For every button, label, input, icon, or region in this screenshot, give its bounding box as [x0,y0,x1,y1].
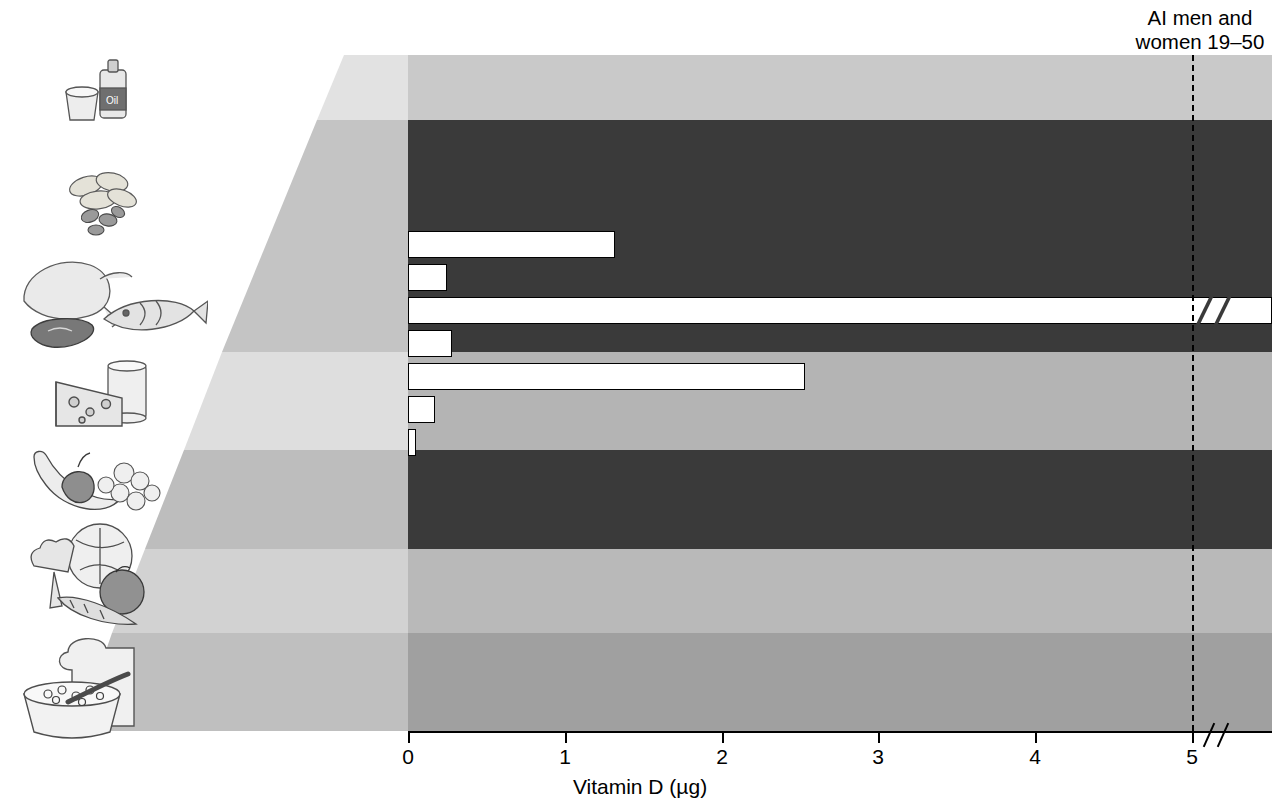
bar-cheddar-cheese [408,396,435,423]
bar-milk [408,363,805,390]
band-fats-oils-sweets [408,55,1272,120]
dairy-illustration [26,360,156,448]
band-grain-group [408,633,1272,731]
band-vegetable-group [408,549,1272,633]
bar-chicken [408,330,452,357]
bar-salmon [408,297,1218,324]
vegetable-illustration [14,520,194,630]
fruit-illustration [28,437,178,533]
ai-annotation-line1: AI men and [1120,6,1280,30]
grains-illustration [16,630,176,740]
x-ticklabel-0: 0 [388,745,428,769]
x-tick-3 [878,731,880,743]
x-axis-line [408,731,1272,733]
oils-illustration: Oil [52,58,157,130]
band-fruit-group [408,450,1272,549]
svg-text:Oil: Oil [106,95,118,106]
x-tick-4 [1035,731,1037,743]
vitamin-d-food-sources-chart: Oil [0,0,1280,809]
ai-reference-line [1192,55,1194,731]
x-ticklabel-2: 2 [702,745,742,769]
x-axis-title: Vitamin D (µg) [0,775,1280,799]
x-tick-2 [722,731,724,743]
x-tick-0 [408,731,410,743]
ai-annotation: AI men and women 19–50 [1120,6,1280,54]
x-tick-5 [1192,731,1194,743]
nuts-legumes-illustration [60,168,168,240]
meat-fish-illustration [8,245,208,357]
x-ticklabel-1: 1 [545,745,585,769]
bar-beef-liver [408,264,447,291]
bar-yogurt [408,429,416,456]
ai-annotation-line2: women 19–50 [1120,30,1280,54]
x-ticklabel-5: 5 [1172,745,1212,769]
x-ticklabel-3: 3 [858,745,898,769]
x-tick-1 [565,731,567,743]
x-ticklabel-4: 4 [1015,745,1055,769]
plot-area [408,55,1272,731]
bar-eggs [408,231,615,258]
